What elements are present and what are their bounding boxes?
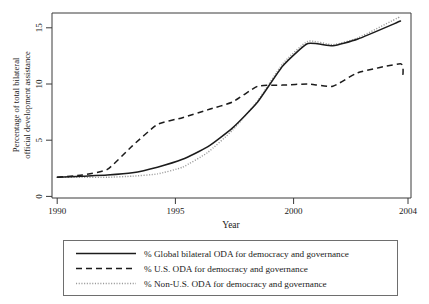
y-tick-label-5: 5 bbox=[34, 137, 44, 142]
y-tick-label-10: 10 bbox=[34, 79, 44, 89]
legend-label-us: % U.S. ODA for democracy and governance bbox=[144, 264, 308, 274]
legend: % Global bilateral ODA for democracy and… bbox=[64, 241, 398, 296]
x-axis-tick-labels: 1990 1995 2000 2004 bbox=[48, 206, 417, 216]
y-axis-tick-labels: 0 5 10 15 bbox=[34, 23, 44, 199]
series-line-nonus bbox=[57, 17, 400, 178]
legend-label-global: % Global bilateral ODA for democracy and… bbox=[144, 249, 349, 259]
series-line-us bbox=[57, 64, 403, 178]
x-tick-label-2000: 2000 bbox=[285, 206, 304, 216]
y-axis-title-line2: official development assistance bbox=[22, 51, 32, 159]
x-tick-label-1995: 1995 bbox=[166, 206, 185, 216]
y-axis-ticks bbox=[46, 28, 52, 197]
y-tick-label-15: 15 bbox=[34, 23, 44, 33]
x-tick-label-1990: 1990 bbox=[48, 206, 67, 216]
chart-figure: 0 5 10 15 Percentage of total bilateral … bbox=[0, 0, 429, 304]
y-tick-label-0: 0 bbox=[34, 194, 44, 199]
y-axis-title: Percentage of total bilateral official d… bbox=[11, 51, 32, 159]
x-axis-ticks bbox=[57, 198, 408, 204]
series-group bbox=[57, 17, 403, 178]
plot-frame bbox=[52, 13, 411, 198]
x-axis-title: Year bbox=[222, 220, 240, 230]
y-axis-title-line1: Percentage of total bilateral bbox=[11, 57, 21, 152]
x-tick-label-2004: 2004 bbox=[399, 206, 418, 216]
series-line-global bbox=[57, 21, 400, 177]
legend-label-nonus: % Non-U.S. ODA for democracy and governa… bbox=[144, 279, 327, 289]
chart-svg: 0 5 10 15 Percentage of total bilateral … bbox=[0, 0, 429, 304]
